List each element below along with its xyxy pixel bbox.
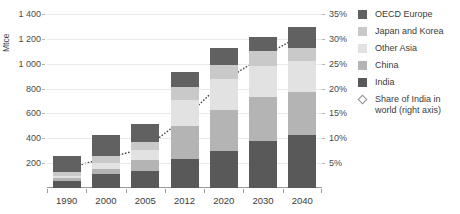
bar-segment [288,27,316,48]
y-axis-right: 5%10%15%20%25%30%35% [322,14,358,188]
legend-item-label: India [375,77,395,88]
x-axis-tickmark [126,189,127,193]
bar-segment [131,150,159,160]
bar-segment [249,51,277,65]
bar-segment [53,181,81,188]
x-axis-tick-label: 2005 [135,195,156,206]
bar-segment [131,124,159,142]
bar-segment [171,126,199,159]
bar-stack [288,14,316,188]
bar-segment [53,156,81,172]
bar-segment [53,178,81,181]
y-axis-tickmark [42,113,45,114]
legend-item[interactable]: China [358,60,458,71]
x-axis-tick-label: 2030 [252,195,273,206]
legend-item-label: OECD Europe [375,9,433,20]
bar-segment [249,37,277,51]
legend-item[interactable]: Other Asia [358,43,458,54]
x-axis-tickmark [321,189,322,193]
x-axis-tickmark [243,189,244,193]
bar-segment [92,169,120,175]
y-axis-tick-label: 1 400 [18,9,41,19]
y-axis-tickmark [42,163,45,164]
y2-axis-tick-label: 30% [329,34,347,44]
bar-segment [288,92,316,134]
y-axis-tick-label: 1 000 [18,59,41,69]
bar-segment [171,159,199,188]
bar-segment [131,171,159,188]
legend-item[interactable]: OECD Europe [358,9,458,20]
x-axis-tickmark [283,189,284,193]
diamond-marker-icon [358,95,367,104]
y2-axis-tick-label: 20% [329,84,347,94]
plot-area [47,14,322,188]
bar-segment [249,66,277,98]
y2-axis-tick-label: 25% [329,59,347,69]
legend-item[interactable]: Japan and Korea [358,26,458,37]
legend-item[interactable]: India [358,77,458,88]
bar-segment [53,176,81,178]
y2-axis-tick-label: 35% [329,9,347,19]
bar-segment [53,172,81,176]
y-axis-left: 2004006008001 0001 2001 400 [0,14,45,188]
legend-item-label: Share of India in world (right axis) [375,94,453,115]
y2-axis-tickmark [322,39,325,40]
bar-segment [92,163,120,169]
y-axis-tick-label: 800 [26,84,41,94]
bar-stack [249,14,277,188]
bar-segment [210,79,238,110]
legend-item-label: Other Asia [375,43,417,54]
bar-segment [171,100,199,126]
x-axis-tickmark [165,189,166,193]
x-axis-tick-label: 2000 [95,195,116,206]
chart-title: World industrial sector coal demand [78,0,268,1]
x-axis-tick-label: 2020 [213,195,234,206]
legend-item[interactable]: Share of India in world (right axis) [358,94,458,115]
x-axis-tickmark [47,189,48,193]
x-axis: 1990200020052012202020302040 [47,189,322,211]
bar-segment [288,48,316,62]
y2-axis-tick-label: 5% [329,158,342,168]
legend-swatch-icon [358,44,367,53]
x-axis-tick-label: 2040 [292,195,313,206]
x-axis-tick-label: 2012 [174,195,195,206]
bar-segment [210,151,238,188]
y-axis-tick-label: 600 [26,108,41,118]
bar-segment [288,135,316,188]
x-axis-tick-label: 1990 [56,195,77,206]
bar-segment [210,110,238,151]
y2-axis-tickmark [322,163,325,164]
bar-segment [92,135,120,157]
chart-legend: OECD EuropeJapan and KoreaOther AsiaChin… [358,9,458,122]
y2-axis-tickmark [322,138,325,139]
bar-segment [210,65,238,79]
y-axis-tickmark [42,64,45,65]
legend-swatch-icon [358,27,367,36]
x-axis-tickmark [86,189,87,193]
bar-stack [53,14,81,188]
y2-axis-tick-label: 10% [329,133,347,143]
bar-segment [131,160,159,171]
legend-swatch-icon [358,61,367,70]
bar-segment [171,72,199,88]
legend-item-label: Japan and Korea [375,26,444,37]
bar-segment [131,142,159,150]
y-axis-tickmark [42,14,45,15]
bar-stack [210,14,238,188]
bar-segment [249,97,277,141]
y2-axis-tickmark [322,14,325,15]
y-axis-tick-label: 400 [26,133,41,143]
y2-axis-tick-label: 15% [329,108,347,118]
y-axis-tickmark [42,138,45,139]
bar-stack [171,14,199,188]
bar-stack [131,14,159,188]
bar-segment [288,61,316,92]
bar-segment [249,141,277,188]
x-axis-tickmark [204,189,205,193]
y-axis-tick-label: 1 200 [18,34,41,44]
chart-figure: World industrial sector coal demand Mtce… [0,0,460,214]
bar-segment [92,174,120,188]
bar-segment [210,48,238,65]
legend-swatch-icon [358,78,367,87]
y2-axis-tickmark [322,64,325,65]
